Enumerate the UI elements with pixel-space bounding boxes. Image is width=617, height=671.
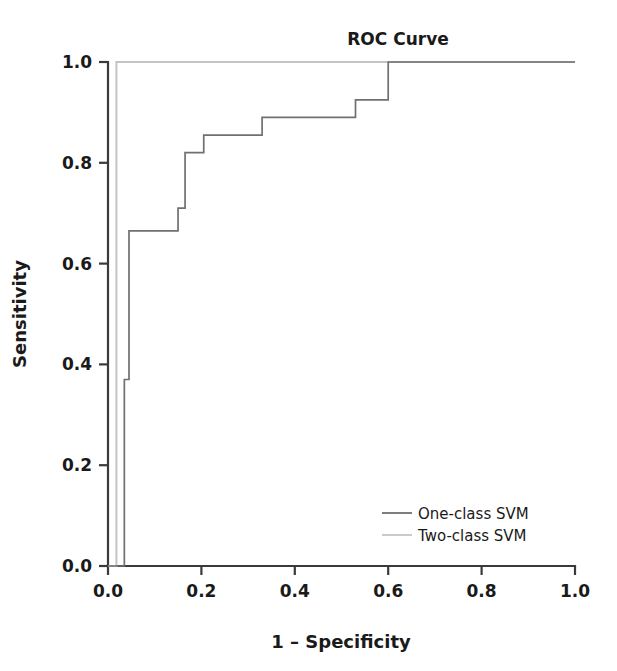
y-tick-label-1.0: 1.0	[62, 52, 92, 72]
x-tick-label-0.2: 0.2	[186, 581, 216, 601]
x-axis-title: 1 – Specificity	[271, 631, 411, 652]
x-tick-label-0.4: 0.4	[280, 581, 310, 601]
y-tick-label-0.0: 0.0	[62, 556, 92, 576]
y-tick-label-0.4: 0.4	[62, 354, 92, 374]
x-tick-label-0.0: 0.0	[93, 581, 123, 601]
y-axis-title: Sensitivity	[9, 260, 30, 368]
y-tick-label-0.6: 0.6	[62, 254, 92, 274]
chart-background	[0, 0, 617, 671]
x-tick-label-0.8: 0.8	[467, 581, 497, 601]
y-tick-label-0.2: 0.2	[62, 455, 92, 475]
legend-label-1: One-class SVM	[418, 505, 529, 523]
x-tick-label-1.0: 1.0	[560, 581, 590, 601]
chart-title: ROC Curve	[347, 29, 449, 49]
x-tick-label-0.6: 0.6	[373, 581, 403, 601]
roc-chart-figure: ROC Curve 0.00.20.40.60.81.0 0.00.20.40.…	[0, 0, 617, 671]
y-tick-label-0.8: 0.8	[62, 153, 92, 173]
legend-label-2: Two-class SVM	[417, 527, 527, 545]
roc-chart-canvas: ROC Curve 0.00.20.40.60.81.0 0.00.20.40.…	[0, 0, 617, 671]
